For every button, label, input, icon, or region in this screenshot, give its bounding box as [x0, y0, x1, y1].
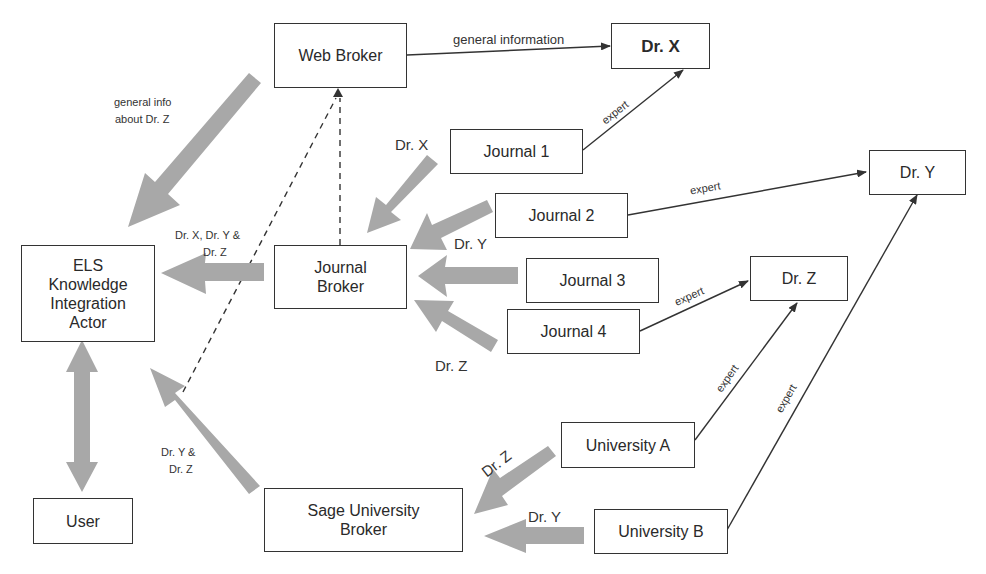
label-general-information: general information [453, 32, 564, 47]
node-label-line3: Integration [50, 294, 126, 313]
node-label-line1: Journal [314, 258, 366, 277]
node-journal-4: Journal 4 [507, 309, 640, 354]
label-flow-dr-y-j2: Dr. Y [454, 236, 487, 251]
node-els-actor: ELS Knowledge Integration Actor [21, 245, 155, 342]
node-label-line1: ELS [73, 256, 103, 275]
node-label: User [66, 512, 100, 531]
node-label: Journal 3 [560, 271, 626, 290]
node-label: Dr. Y [900, 163, 935, 182]
node-label-line1: Sage University [307, 501, 419, 520]
node-journal-1: Journal 1 [450, 129, 583, 174]
thick-arrow-j4-to-jbroker [414, 300, 498, 352]
node-label: Journal 2 [529, 206, 595, 225]
node-label-line2: Knowledge [48, 275, 127, 294]
node-label: Web Broker [298, 46, 382, 65]
thick-arrow-ua-to-sage [474, 446, 556, 514]
node-dr-x: Dr. X [611, 23, 710, 69]
node-sage-university-broker: Sage University Broker [264, 488, 463, 552]
node-dr-z: Dr. Z [750, 256, 848, 301]
label-flow-xyz-line2: Dr. Z [203, 246, 227, 259]
label-flow-yz-line2: Dr. Z [169, 463, 193, 476]
node-journal-broker: Journal Broker [274, 245, 407, 309]
edge-journal1-to-dr-x [583, 70, 683, 150]
node-label: Journal 1 [484, 142, 550, 161]
edge-web-broker-to-dr-x [407, 46, 610, 55]
edge-university-b-to-dr-y [727, 195, 917, 530]
node-label: University B [618, 522, 703, 541]
web-broker-arrowhead [333, 88, 343, 97]
node-user: User [33, 498, 133, 544]
node-label: Dr. Z [782, 269, 817, 288]
edge-university-a-to-dr-z [695, 303, 797, 440]
label-general-info-line1: general info [114, 96, 172, 109]
label-flow-dr-x: Dr. X [395, 137, 428, 152]
node-label: Journal 4 [541, 322, 607, 341]
node-dr-y: Dr. Y [869, 150, 966, 195]
thick-arrow-els-user [66, 340, 98, 492]
label-flow-dr-y-ub: Dr. Y [528, 509, 561, 524]
node-journal-2: Journal 2 [495, 193, 628, 238]
label-flow-xyz-line1: Dr. X, Dr. Y & [175, 229, 240, 242]
node-label-line2: Broker [317, 277, 364, 296]
node-label-line4: Actor [69, 313, 106, 332]
label-flow-yz-line1: Dr. Y & [161, 446, 195, 459]
thick-arrow-jbroker-to-els [161, 253, 264, 294]
node-label: Dr. X [641, 37, 680, 56]
node-university-a: University A [561, 422, 695, 468]
thick-arrow-j3-to-jbroker [418, 255, 518, 297]
node-label: University A [586, 436, 670, 455]
node-journal-3: Journal 3 [526, 258, 659, 303]
node-web-broker: Web Broker [274, 23, 407, 88]
label-general-info-line2: about Dr. Z [115, 113, 169, 126]
node-university-b: University B [594, 509, 728, 554]
edge-journal2-to-dr-y [628, 172, 866, 215]
node-label-line2: Broker [340, 520, 387, 539]
label-flow-dr-z-j4: Dr. Z [435, 358, 468, 373]
thick-arrow-sage-to-els [150, 368, 260, 494]
